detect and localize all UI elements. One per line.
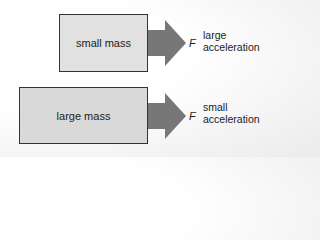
force-label: F xyxy=(189,37,196,49)
large-mass-box: large mass xyxy=(19,87,148,144)
small-mass-label: small mass xyxy=(76,37,131,49)
force-label: F xyxy=(189,110,196,122)
force-arrow-icon xyxy=(148,18,188,68)
small-mass-box: small mass xyxy=(59,14,148,72)
acceleration-label: large acceleration xyxy=(203,29,260,53)
acceleration-word: acceleration xyxy=(203,41,260,53)
force-arrow-icon xyxy=(148,91,188,141)
acceleration-label: small acceleration xyxy=(203,101,260,125)
acceleration-size: large xyxy=(203,29,260,41)
acceleration-size: small xyxy=(203,101,260,113)
acceleration-word: acceleration xyxy=(203,113,260,125)
large-mass-label: large mass xyxy=(57,110,111,122)
